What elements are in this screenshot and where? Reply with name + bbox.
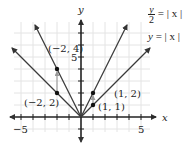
label-point-m2-2: (−2, 2)	[24, 97, 59, 108]
y-axis-label: y	[77, 4, 84, 15]
stretch-arrows	[57, 72, 93, 105]
eq2-rhs: = | x |	[153, 30, 180, 42]
legend-equation-base: y = | x |	[148, 30, 180, 42]
label-point-1-1: (1, 1)	[98, 101, 125, 112]
tick-label-neg5: −5	[13, 124, 28, 135]
eq1-rhs: = | x |	[155, 7, 182, 19]
tick-label-5-x: 5	[138, 124, 144, 135]
point-m2-2	[55, 91, 59, 95]
point-1-1	[91, 103, 95, 107]
eq1-denominator: 2	[148, 15, 155, 24]
point-m2-4	[55, 67, 59, 71]
x-axis-label: x	[162, 112, 168, 123]
legend-equation-stretched: y 2 = | x |	[148, 5, 182, 24]
label-point-m2-4: (−2, 4)	[48, 43, 83, 54]
label-point-1-2: (1, 2)	[114, 88, 141, 99]
point-1-2	[91, 91, 95, 95]
